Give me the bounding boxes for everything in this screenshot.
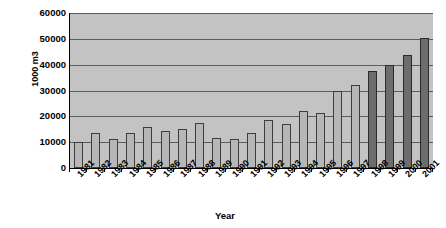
bar-1999 bbox=[385, 65, 394, 168]
bar-1996 bbox=[333, 91, 342, 168]
bar-1998 bbox=[368, 71, 377, 168]
bar-1997 bbox=[351, 85, 360, 168]
y-tick-label: 40000 bbox=[26, 59, 66, 70]
y-axis-tick-labels: 6000050000400003000020000100000 bbox=[26, 0, 66, 180]
bar-1994 bbox=[299, 111, 308, 168]
y-tick-label: 20000 bbox=[26, 110, 66, 121]
bar-2001 bbox=[420, 38, 429, 168]
bar-1995 bbox=[316, 113, 325, 168]
x-axis-tick-labels: 1981198219831984198519861987198819891990… bbox=[0, 172, 446, 206]
x-axis-title: Year bbox=[180, 210, 270, 221]
y-tick-label: 60000 bbox=[26, 7, 66, 18]
bar-series bbox=[70, 13, 433, 168]
y-tick-label: 10000 bbox=[26, 136, 66, 147]
bar-2000 bbox=[403, 55, 412, 168]
y-tick-label: 50000 bbox=[26, 33, 66, 44]
y-tick-label: 30000 bbox=[26, 85, 66, 96]
plot-area bbox=[69, 13, 433, 169]
bar-chart: 1000 m3 6000050000400003000020000100000 … bbox=[0, 0, 446, 228]
